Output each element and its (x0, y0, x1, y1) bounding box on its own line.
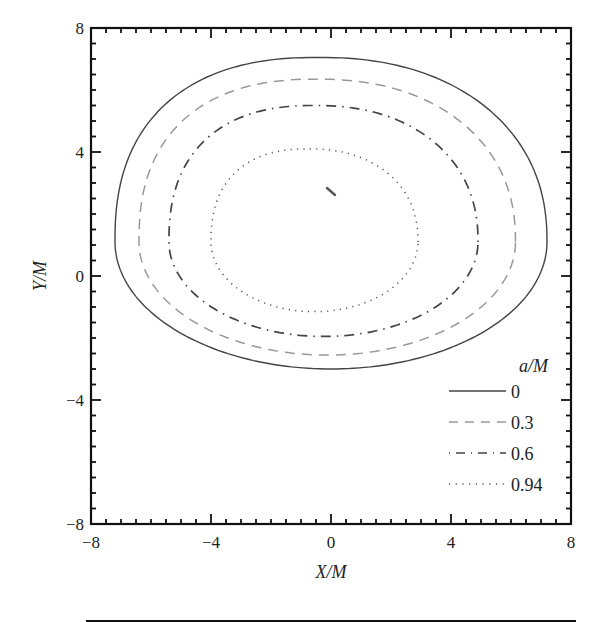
plot-frame (91, 28, 571, 524)
curve-a-0.94 (211, 149, 418, 312)
legend-label: 0.94 (511, 475, 543, 495)
x-tick-label: −8 (82, 533, 100, 552)
curve-a-0.3 (139, 79, 516, 355)
y-tick-label: 0 (76, 267, 85, 286)
y-tick-label: 8 (76, 19, 85, 38)
curve-a-0 (115, 58, 547, 370)
y-tick-label: −8 (66, 515, 84, 534)
x-tick-label: 8 (567, 533, 576, 552)
curve-a-0.6 (169, 106, 478, 337)
x-tick-label: 0 (327, 533, 336, 552)
legend-entry-0: 0 (449, 382, 520, 402)
legend-label: 0 (511, 382, 520, 402)
center-mark (327, 188, 335, 195)
y-axis-label: Y/M (30, 260, 50, 291)
legend-label: 0.3 (511, 413, 534, 433)
shadow-plot: −8−4048−8−4048 X/M Y/M a/M 0 0.3 0.6 0.9… (0, 0, 601, 622)
legend: a/M 0 0.3 0.6 0.94 (449, 356, 549, 495)
x-tick-label: 4 (447, 533, 456, 552)
axis-ticks (91, 28, 571, 524)
y-tick-label: −4 (66, 391, 85, 410)
legend-label: 0.6 (511, 444, 534, 464)
x-axis-label: X/M (315, 562, 348, 582)
y-tick-label: 4 (76, 143, 85, 162)
legend-entry-3: 0.94 (449, 475, 543, 495)
legend-title: a/M (519, 356, 549, 376)
tick-labels: −8−4048−8−4048 (66, 19, 575, 552)
plot-curves (115, 58, 547, 370)
legend-entry-1: 0.3 (449, 413, 534, 433)
axes-box (91, 28, 571, 524)
x-tick-label: −4 (202, 533, 221, 552)
legend-entry-2: 0.6 (449, 444, 534, 464)
